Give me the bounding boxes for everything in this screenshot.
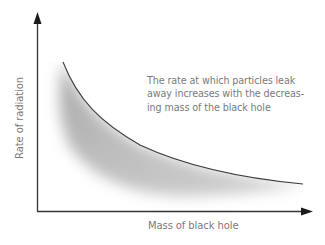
y-axis-arrow-icon: [34, 12, 42, 24]
annotation-line-2: away increases with the decreas-: [147, 87, 325, 100]
x-axis-arrow-icon: [301, 208, 313, 216]
annotation-line-1: The rate at which particles leak: [147, 74, 325, 87]
x-axis-label: Mass of black hole: [148, 220, 238, 231]
curve-annotation: The rate at which particles leak away in…: [147, 74, 325, 114]
y-axis-label: Rate of radiation: [14, 77, 25, 159]
radiation-vs-mass-diagram: [0, 0, 325, 245]
annotation-line-3: ing mass of the black hole: [147, 101, 325, 114]
